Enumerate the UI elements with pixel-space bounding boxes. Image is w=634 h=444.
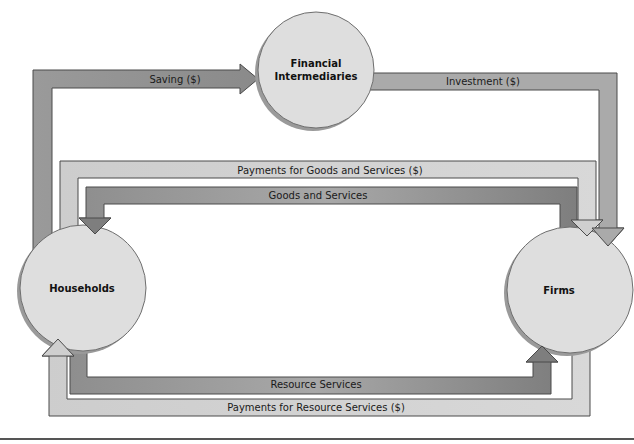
financial-intermediaries-node: Financial Intermediaries (255, 12, 374, 131)
financial-label-2: Intermediaries (275, 71, 358, 82)
saving-label: Saving ($) (149, 74, 200, 85)
resource-label: Resource Services (270, 379, 361, 390)
resource-flow: Resource Services (70, 345, 558, 394)
firms-node: Firms (504, 227, 633, 356)
circular-flow-diagram: Saving ($) Investment ($) Payments for G… (0, 0, 634, 444)
bottom-rule (0, 438, 634, 440)
investment-label: Investment ($) (446, 76, 520, 87)
payments-goods-label: Payments for Goods and Services ($) (237, 165, 422, 176)
households-label: Households (49, 283, 115, 294)
financial-label-1: Financial (291, 58, 342, 69)
payments-resource-label: Payments for Resource Services ($) (227, 402, 405, 413)
firms-label: Firms (543, 285, 575, 296)
goods-flow: Goods and Services (79, 187, 577, 238)
goods-label: Goods and Services (269, 190, 368, 201)
